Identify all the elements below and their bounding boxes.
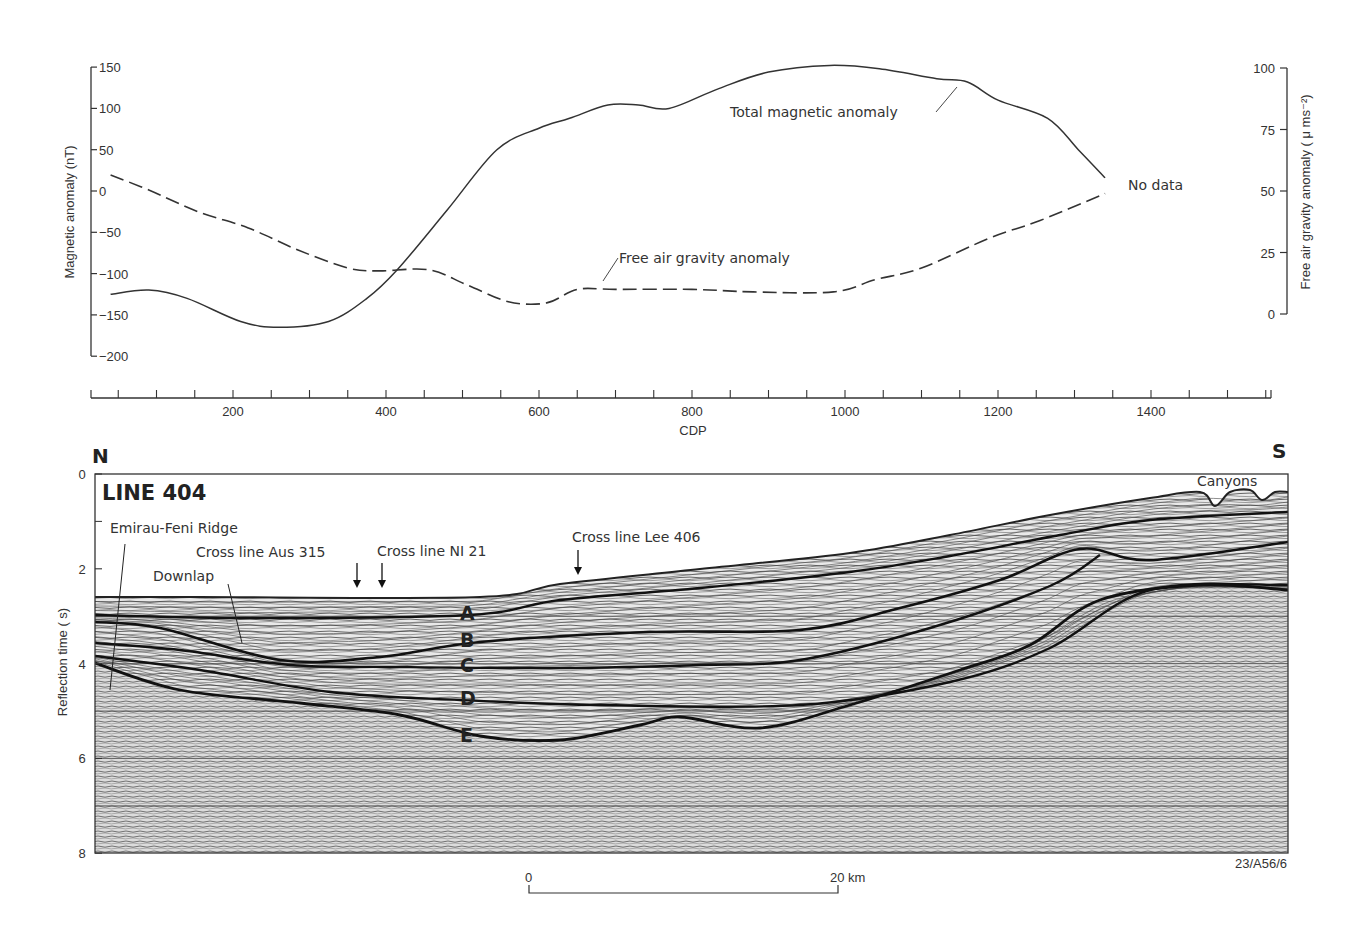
gravity-tick-label: 50 bbox=[1261, 184, 1275, 199]
reflector-d-label: D bbox=[460, 687, 476, 709]
scale-bar-start: 0 bbox=[525, 870, 532, 885]
magnetic-anomaly-label: Total magnetic anomaly bbox=[729, 104, 898, 120]
svg-text:6: 6 bbox=[78, 751, 85, 766]
reflector-a-label: A bbox=[460, 602, 475, 624]
cdp-tick-label: 1400 bbox=[1137, 404, 1166, 419]
magnetic-tick-label: −50 bbox=[99, 225, 121, 240]
lee406-label: Cross line Lee 406 bbox=[572, 529, 701, 545]
gravity-tick-label: 100 bbox=[1253, 61, 1275, 76]
svg-text:2: 2 bbox=[78, 562, 85, 577]
cdp-tick-label: 800 bbox=[681, 404, 703, 419]
no-data-label: No data bbox=[1128, 177, 1183, 193]
ridge-label: Emirau-Feni Ridge bbox=[110, 520, 238, 536]
cdp-tick-label: 400 bbox=[375, 404, 397, 419]
gravity-axis: 1007550250 bbox=[1253, 61, 1287, 322]
cdp-axis-title: CDP bbox=[679, 423, 706, 438]
scale-bar: 0 20 km bbox=[525, 870, 865, 893]
cdp-tick-label: 1000 bbox=[831, 404, 860, 419]
scale-bar-end: 20 km bbox=[830, 870, 865, 885]
svg-text:8: 8 bbox=[78, 846, 85, 861]
gravity-axis-title: Free air gravity anomaly ( μ ms⁻²) bbox=[1298, 94, 1313, 289]
figure-id: 23/A56/6 bbox=[1235, 856, 1287, 871]
gravity-tick-label: 75 bbox=[1261, 123, 1275, 138]
magnetic-tick-label: 0 bbox=[99, 184, 106, 199]
gravity-anomaly-label: Free air gravity anomaly bbox=[619, 250, 790, 266]
magnetic-anomaly-line bbox=[111, 65, 1106, 327]
magnetic-tick-label: 50 bbox=[99, 143, 113, 158]
line-title: LINE 404 bbox=[102, 481, 206, 505]
magnetic-tick-label: −200 bbox=[99, 349, 128, 364]
reflection-time-title: Reflection time ( s) bbox=[55, 608, 70, 716]
south-label: S bbox=[1272, 439, 1286, 463]
figure: 150100500−50−100−150−200 Magnetic anomal… bbox=[0, 0, 1357, 939]
magnetic-tick-label: 100 bbox=[99, 101, 121, 116]
reflector-e-label: E bbox=[460, 724, 473, 746]
cdp-axis: 200400600800100012001400 bbox=[91, 390, 1271, 419]
gravity-anomaly-line bbox=[111, 175, 1106, 304]
reflector-c-label: C bbox=[460, 654, 474, 676]
svg-text:0: 0 bbox=[78, 467, 85, 482]
downlap-label: Downlap bbox=[153, 568, 214, 584]
aus315-label: Cross line Aus 315 bbox=[196, 544, 325, 560]
cdp-tick-label: 1200 bbox=[984, 404, 1013, 419]
magnetic-tick-label: 150 bbox=[99, 60, 121, 75]
magnetic-tick-label: −100 bbox=[99, 267, 128, 282]
gravity-tick-label: 25 bbox=[1261, 246, 1275, 261]
north-label: N bbox=[92, 444, 109, 468]
svg-text:4: 4 bbox=[78, 657, 85, 672]
magnetic-axis: 150100500−50−100−150−200 bbox=[91, 60, 128, 364]
ni21-label: Cross line NI 21 bbox=[377, 543, 486, 559]
magnetic-axis-title: Magnetic anomaly (nT) bbox=[62, 146, 77, 279]
canyons-label: Canyons bbox=[1197, 473, 1257, 489]
cdp-tick-label: 600 bbox=[528, 404, 550, 419]
magnetic-tick-label: −150 bbox=[99, 308, 128, 323]
gravity-tick-label: 0 bbox=[1268, 307, 1275, 322]
cdp-tick-label: 200 bbox=[222, 404, 244, 419]
reflector-b-label: B bbox=[460, 629, 474, 651]
